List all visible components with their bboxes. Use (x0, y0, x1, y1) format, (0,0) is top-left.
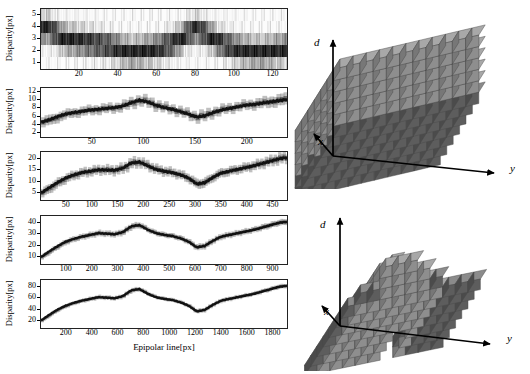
x-tick-label: 60 (152, 70, 160, 78)
x-tick-label: 100 (86, 201, 98, 209)
x-tick-label: 1200 (187, 329, 203, 337)
x-tick-label: 80 (191, 70, 199, 78)
y-axis-label-5: Disparity[px] (2, 279, 16, 327)
heatmap-cell (286, 57, 287, 69)
x-axis-ticks-5: 20040060080010001200140016001800 (40, 328, 288, 339)
x-tick-label: 1800 (265, 329, 281, 337)
y-axis-label-1: Disparity[px] (2, 8, 16, 68)
plot-area-5 (40, 279, 288, 329)
y-tick-label: 20 (28, 241, 36, 249)
y-axis-ticks-3: 5101520 (16, 151, 38, 199)
axis-label-y-full: y (509, 162, 515, 174)
y-tick-label: 40 (28, 218, 36, 226)
y-axis-ticks-2: 24681012 (16, 87, 38, 136)
x-axis-ticks-4: 100200300400500600700800900 (40, 264, 288, 275)
cost-volume-diagram-pruned: d x y (292, 186, 530, 371)
x-tick-label: 200 (86, 265, 98, 273)
x-axis-ticks-1: 20406080100120 (40, 69, 288, 80)
x-axis-ticks-2: 50100150200 (40, 137, 288, 148)
cost-volume-svg-pruned: d x y (292, 186, 530, 371)
y-tick-label: 10 (28, 177, 36, 185)
plot-area-1 (40, 8, 288, 70)
x-tick-label: 300 (189, 201, 201, 209)
plot-area-3 (40, 151, 288, 201)
y-tick-label: 6 (32, 112, 36, 120)
y-tick-label: 3 (32, 34, 36, 42)
heatmap-cell (286, 9, 287, 21)
y-axis-ticks-5: 20406080 (16, 279, 38, 327)
disparity-heatmap-3 (41, 152, 287, 200)
y-axis-label-2: Disparity[px] (2, 87, 16, 136)
x-tick-label: 50 (62, 201, 70, 209)
x-tick-label: 600 (189, 265, 201, 273)
y-tick-label: 10 (28, 252, 36, 260)
x-tick-label: 350 (215, 201, 227, 209)
y-tick-label: 10 (28, 95, 36, 103)
y-axis-ticks-4: 10203040 (16, 215, 38, 263)
cube-stack-pruned (305, 251, 487, 371)
heatmap-cell (286, 21, 287, 33)
axis-label-d-full: d (314, 36, 320, 48)
disparity-panel-1: Disparity[px] 12345 (0, 8, 292, 68)
x-tick-label: 150 (112, 201, 124, 209)
x-tick-label: 600 (112, 329, 124, 337)
y-axis-label-4: Disparity[px] (2, 215, 16, 263)
y-tick-label: 80 (28, 282, 36, 290)
x-axis-ticks-3: 50100150200250300350400450 (40, 200, 288, 211)
y-tick-label: 30 (28, 229, 36, 237)
y-tick-label: 4 (32, 120, 36, 128)
disparity-panel-3: Disparity[px] 5101520 (0, 151, 292, 199)
plot-area-4 (40, 215, 288, 265)
x-tick-label: 200 (137, 201, 149, 209)
axis-label-d-pruned: d (320, 218, 326, 230)
figure-root: Disparity[px] 12345 20406080100120 Dispa… (0, 0, 530, 374)
y-tick-label: 1 (32, 58, 36, 66)
x-tick-label: 120 (267, 70, 279, 78)
cost-volume-svg-full: d x y (292, 4, 530, 189)
x-tick-label: 400 (86, 329, 98, 337)
plot-area-2 (40, 87, 288, 138)
cost-volume-column: d x y d x y (292, 0, 530, 374)
y-tick-label: 20 (28, 154, 36, 162)
y-tick-label: 5 (32, 10, 36, 18)
axis-label-y-pruned: y (506, 332, 512, 344)
x-tick-label: 150 (189, 138, 201, 146)
y-axis-label-3: Disparity[px] (2, 151, 16, 199)
x-tick-label: 200 (241, 138, 253, 146)
x-tick-label: 40 (114, 70, 122, 78)
x-tick-label: 100 (60, 265, 72, 273)
disparity-heatmap-1 (41, 9, 287, 69)
x-tick-label: 1400 (213, 329, 229, 337)
x-tick-label: 400 (241, 201, 253, 209)
x-tick-label: 300 (112, 265, 124, 273)
disparity-heatmap-2 (41, 88, 287, 137)
x-axis-title: Epipolar line[px] (40, 342, 288, 352)
y-tick-label: 12 (28, 87, 36, 95)
disparity-panel-4: Disparity[px] 10203040 (0, 215, 292, 263)
x-tick-label: 1000 (161, 329, 177, 337)
cube-stack-full (295, 25, 485, 189)
y-tick-label: 40 (28, 305, 36, 313)
x-tick-label: 800 (137, 329, 149, 337)
disparity-heatmap-5 (41, 280, 287, 328)
disparity-panel-5: Disparity[px] 20406080 (0, 279, 292, 327)
y-tick-label: 20 (28, 316, 36, 324)
x-tick-label: 500 (163, 265, 175, 273)
x-tick-label: 900 (267, 265, 279, 273)
y-tick-label: 4 (32, 22, 36, 30)
x-tick-label: 50 (88, 138, 96, 146)
x-tick-label: 400 (137, 265, 149, 273)
y-tick-label: 15 (28, 165, 36, 173)
heatmap-cell (286, 33, 287, 45)
x-tick-label: 100 (228, 70, 240, 78)
cost-volume-diagram-full: d x y (292, 4, 530, 189)
x-tick-label: 250 (163, 201, 175, 209)
x-tick-label: 700 (215, 265, 227, 273)
disparity-panel-2: Disparity[px] 24681012 (0, 87, 292, 136)
y-tick-label: 8 (32, 103, 36, 111)
heatmap-cell (286, 45, 287, 57)
x-tick-label: 20 (75, 70, 83, 78)
axis-label-x-pruned: x (323, 305, 329, 317)
y-tick-label: 2 (32, 46, 36, 54)
disparity-heatmap-4 (41, 216, 287, 264)
